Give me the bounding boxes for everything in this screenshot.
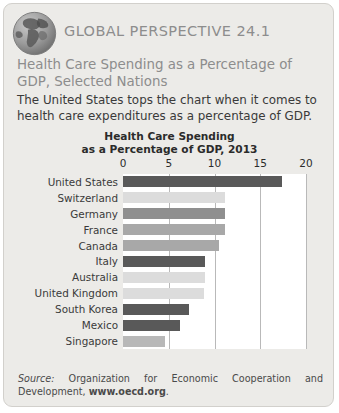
x-axis-tick-20: 20 [299,157,312,169]
bar-australia [123,272,205,283]
source-text: Organization for Economic Cooperation an… [18,373,323,397]
source-note: Source: Organization for Economic Cooper… [18,373,323,398]
bar-label-switzerland: Switzerland [57,192,118,204]
x-axis-tick-10: 10 [208,157,221,169]
source-label: Source: [18,373,54,384]
global-perspective-card: GLOBAL PERSPECTIVE 24.1 Health Care Spen… [3,3,334,407]
bar-row: Switzerland [4,190,335,206]
bar-label-france: France [83,224,118,236]
bar-row: United States [4,174,335,190]
x-axis-tick-0: 0 [120,157,127,169]
bar-row: Australia [4,269,335,285]
bar-label-united-states: United States [48,176,118,188]
bar-singapore [123,336,165,347]
bar-mexico [123,320,180,331]
x-axis-tick-5: 5 [165,157,172,169]
bar-canada [123,240,219,251]
bar-row: Mexico [4,317,335,333]
card-lede-paragraph: The United States tops the chart when it… [17,93,325,124]
bar-label-south-korea: South Korea [55,303,118,315]
bar-row: Canada [4,238,335,254]
bar-germany [123,208,225,219]
chart-title-line-2: as a Percentage of GDP, 2013 [18,143,321,156]
globe-americas-icon [11,10,58,57]
bar-label-australia: Australia [72,271,118,283]
bar-rows: United StatesSwitzerlandGermanyFranceCan… [4,174,335,349]
chart-title: Health Care Spending as a Percentage of … [18,130,321,155]
bar-label-united-kingdom: United Kingdom [35,287,118,299]
source-url[interactable]: www.oecd.org [89,386,166,397]
source-period: . [166,386,169,397]
bar-south-korea [123,304,189,315]
bar-united-kingdom [123,288,204,299]
bar-row: United Kingdom [4,285,335,301]
bar-italy [123,256,205,267]
bar-label-italy: Italy [95,255,118,267]
card-subtitle: Health Care Spending as a Percentage of … [17,56,317,90]
x-axis-tick-15: 15 [254,157,267,169]
bar-row: Singapore [4,333,335,349]
bar-row: Italy [4,254,335,270]
x-axis-tick-labels: 05101520 [4,157,335,171]
bar-chart: Health Care Spending as a Percentage of … [4,130,335,362]
card-header: GLOBAL PERSPECTIVE 24.1 [4,4,333,60]
bar-label-canada: Canada [78,240,118,252]
bar-france [123,224,225,235]
bar-row: Germany [4,206,335,222]
bar-switzerland [123,192,225,203]
bar-united-states [123,176,282,187]
chart-title-line-1: Health Care Spending [18,130,321,143]
bar-label-germany: Germany [70,208,118,220]
bar-row: South Korea [4,301,335,317]
bar-label-mexico: Mexico [82,319,118,331]
card-kicker: GLOBAL PERSPECTIVE 24.1 [64,23,270,39]
bar-label-singapore: Singapore [66,335,118,347]
bar-row: France [4,222,335,238]
